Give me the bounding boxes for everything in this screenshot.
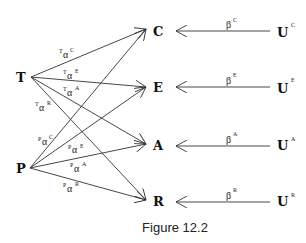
svg-text:R: R bbox=[291, 192, 295, 198]
figure-caption: Figure 12.2 bbox=[142, 220, 208, 235]
svg-text:E: E bbox=[233, 72, 237, 78]
svg-text:α: α bbox=[42, 136, 48, 147]
label-alpha-T-C: T α C bbox=[59, 47, 74, 60]
figure-12-2-diagram: T P C E A R U C U E U A U R β C β E β A … bbox=[0, 0, 306, 243]
svg-text:C: C bbox=[291, 22, 295, 28]
node-T: T bbox=[16, 70, 26, 85]
node-E: E bbox=[153, 80, 163, 95]
svg-text:R: R bbox=[47, 100, 51, 106]
node-A: A bbox=[152, 138, 164, 153]
node-UC: U C bbox=[277, 22, 295, 40]
svg-text:U: U bbox=[277, 194, 289, 209]
svg-text:α: α bbox=[67, 183, 73, 194]
edge-P-R bbox=[30, 168, 146, 200]
svg-text:β: β bbox=[226, 134, 231, 145]
svg-text:A: A bbox=[233, 131, 238, 137]
label-beta-E: β E bbox=[226, 72, 237, 86]
node-UA: U A bbox=[277, 136, 296, 153]
svg-text:E: E bbox=[75, 68, 79, 74]
svg-text:β: β bbox=[226, 75, 231, 86]
edge-T-C bbox=[31, 29, 146, 77]
label-alpha-T-E: T α E bbox=[63, 68, 79, 81]
node-P: P bbox=[16, 161, 26, 176]
label-alpha-P-C: P α C bbox=[38, 134, 53, 147]
svg-text:U: U bbox=[277, 25, 289, 40]
label-alpha-T-A: T α A bbox=[63, 85, 80, 98]
svg-text:α: α bbox=[74, 163, 80, 174]
alpha-edges-from-T bbox=[31, 29, 146, 200]
label-alpha-P-R: P α R bbox=[63, 181, 79, 194]
label-alpha-P-E: P α E bbox=[68, 143, 84, 155]
svg-text:α: α bbox=[39, 102, 45, 113]
svg-text:A: A bbox=[75, 85, 80, 91]
node-UE: U E bbox=[277, 77, 295, 96]
svg-text:E: E bbox=[80, 143, 84, 149]
svg-text:α: α bbox=[72, 144, 78, 155]
node-R: R bbox=[153, 194, 164, 209]
beta-edges bbox=[176, 31, 270, 202]
label-beta-A: β A bbox=[226, 131, 238, 145]
node-C: C bbox=[153, 24, 163, 39]
edge-T-E bbox=[31, 77, 146, 87]
label-alpha-P-A: P α A bbox=[70, 161, 87, 174]
svg-text:α: α bbox=[67, 87, 73, 98]
svg-text:α: α bbox=[67, 70, 73, 81]
alpha-edges-from-P bbox=[30, 29, 146, 200]
svg-text:E: E bbox=[291, 77, 295, 83]
svg-text:α: α bbox=[63, 49, 69, 60]
svg-text:U: U bbox=[277, 81, 289, 96]
svg-text:C: C bbox=[49, 134, 53, 140]
node-UR: U R bbox=[277, 192, 295, 209]
svg-text:R: R bbox=[75, 181, 79, 187]
svg-text:C: C bbox=[70, 47, 74, 53]
svg-text:β: β bbox=[226, 190, 231, 201]
svg-text:U: U bbox=[277, 138, 289, 153]
label-beta-R: β R bbox=[226, 187, 237, 201]
svg-text:R: R bbox=[233, 187, 237, 193]
svg-text:A: A bbox=[291, 136, 296, 142]
svg-text:A: A bbox=[82, 161, 87, 167]
label-alpha-T-R: T α R bbox=[35, 100, 51, 113]
svg-text:C: C bbox=[233, 17, 237, 23]
svg-text:β: β bbox=[226, 19, 231, 30]
label-beta-C: β C bbox=[226, 17, 237, 30]
